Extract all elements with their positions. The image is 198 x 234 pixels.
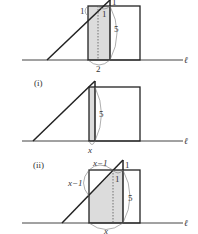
panel-ii: (ii) x−1 x−1 1 1 5 x ℓ (22, 158, 188, 234)
triangle-hypotenuse (33, 81, 95, 141)
panel-label: (ii) (33, 160, 44, 170)
square (89, 87, 140, 141)
label-top: x−1 (92, 158, 108, 168)
brace-left (84, 170, 90, 196)
panel-label: (i) (34, 78, 43, 88)
label-height: 5 (99, 109, 104, 119)
panel-top: 1 1 1 5 2 ℓ (22, 0, 188, 74)
label-line-l: ℓ (184, 136, 188, 146)
panel-i: (i) 5 x ℓ (22, 78, 188, 155)
label-bottom: 2 (96, 64, 101, 74)
label-left-one: 1 (80, 6, 85, 16)
shaded-strip (89, 87, 95, 141)
label-height: 5 (128, 193, 133, 203)
label-bottom: x (87, 145, 92, 155)
label-top-one: 1 (125, 160, 130, 170)
shaded-region (89, 172, 113, 223)
diagram-canvas: 1 1 1 5 2 ℓ (i) 5 x ℓ (ii) x−1 x−1 (0, 0, 198, 234)
shaded-strip (88, 6, 110, 60)
label-inner-one: 1 (102, 9, 107, 19)
label-bottom: x (103, 226, 108, 234)
label-top-one: 1 (112, 0, 117, 7)
label-line-l: ℓ (184, 218, 188, 228)
label-height: 5 (114, 24, 119, 34)
label-line-l: ℓ (184, 55, 188, 65)
label-inner-one: 1 (115, 174, 120, 184)
label-left: x−1 (67, 178, 83, 188)
